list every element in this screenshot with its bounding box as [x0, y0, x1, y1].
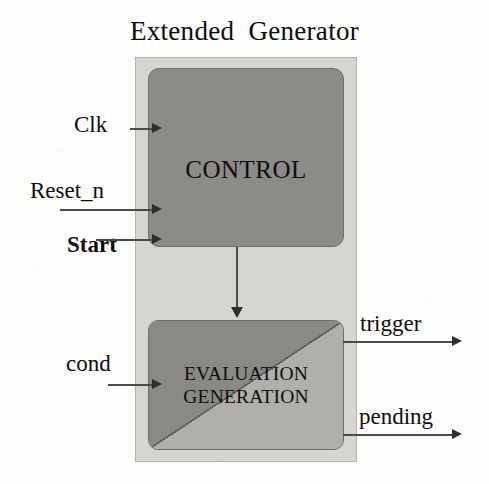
evaluation-generation-block[interactable]: EVALUATION GENERATION — [148, 320, 344, 450]
output-wire-pending — [343, 434, 454, 436]
input-wire-clk — [130, 128, 154, 130]
output-arrowhead-trigger — [452, 336, 462, 346]
input-wire-cond — [108, 384, 154, 386]
diagram-title: Extended Generator — [0, 16, 489, 47]
input-arrowhead-clk — [152, 123, 162, 133]
input-wire-start — [96, 239, 154, 241]
evaluation-generation-label-group: EVALUATION GENERATION — [149, 321, 343, 449]
evaluation-label: EVALUATION — [184, 362, 308, 385]
internal-wire-control-to-evaluation — [236, 247, 238, 309]
input-arrowhead-cond — [152, 379, 162, 389]
input-label-start: Start — [67, 232, 117, 258]
input-label-cond: cond — [66, 351, 111, 377]
input-arrowhead-reset-n — [152, 204, 162, 214]
control-block[interactable]: CONTROL — [148, 68, 344, 247]
input-label-clk: Clk — [74, 112, 107, 138]
output-arrowhead-pending — [452, 429, 462, 439]
input-wire-reset-n — [60, 209, 154, 211]
output-label-trigger: trigger — [360, 311, 421, 337]
input-label-reset-n: Reset_n — [30, 178, 104, 204]
diagram-canvas: Extended Generator CONTROL EVALUATION GE… — [0, 0, 489, 484]
input-arrowhead-start — [152, 234, 162, 244]
generation-label: GENERATION — [183, 385, 308, 408]
control-block-label: CONTROL — [185, 156, 307, 184]
internal-arrowhead-control-to-evaluation — [231, 307, 243, 318]
output-label-pending: pending — [359, 404, 433, 430]
output-wire-trigger — [343, 341, 454, 343]
